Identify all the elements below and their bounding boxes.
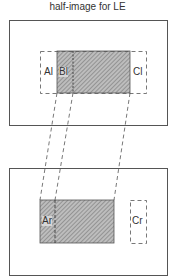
label-cr: Cr	[132, 216, 143, 226]
connector-a	[40, 93, 57, 200]
label-cl: Cl	[133, 67, 142, 77]
connector-c	[114, 93, 130, 200]
top-hatched-region	[57, 51, 130, 93]
connector-b	[55, 93, 73, 200]
label-bl: Bl	[59, 67, 68, 77]
diagram-canvas	[0, 0, 175, 279]
label-ar: Ar	[42, 216, 52, 226]
label-al: Al	[44, 67, 53, 77]
